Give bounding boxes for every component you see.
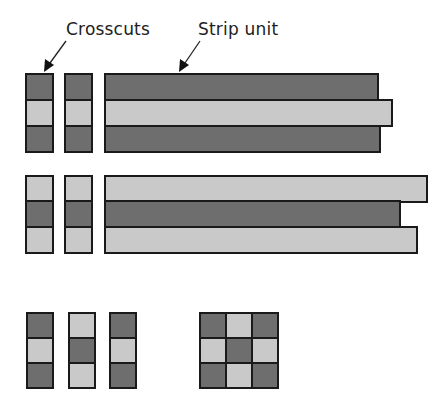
crosscut-1-segment bbox=[25, 73, 54, 101]
nine-patch-cell bbox=[225, 362, 253, 389]
crosscuts-arrow-icon bbox=[44, 41, 66, 72]
crosscut-1-segment bbox=[25, 175, 54, 203]
strip bbox=[104, 99, 393, 127]
crosscut-1-segment bbox=[25, 125, 54, 153]
crosscut-2-segment bbox=[64, 200, 93, 228]
crosscut-column-segment bbox=[109, 312, 137, 339]
crosscut-2-segment bbox=[64, 125, 93, 153]
crosscut-1-segment bbox=[25, 99, 54, 127]
crosscut-2-segment bbox=[64, 175, 93, 203]
crosscut-column-segment bbox=[68, 362, 96, 389]
crosscut-column-segment bbox=[26, 337, 54, 364]
crosscut-column-segment bbox=[68, 337, 96, 364]
crosscut-2-segment bbox=[64, 73, 93, 101]
crosscut-1-segment bbox=[25, 226, 54, 254]
crosscut-2-segment bbox=[64, 99, 93, 127]
nine-patch-cell bbox=[199, 362, 227, 389]
crosscut-column-segment bbox=[109, 362, 137, 389]
nine-patch-cell bbox=[199, 312, 227, 339]
crosscut-column-segment bbox=[26, 362, 54, 389]
strip bbox=[104, 73, 379, 101]
nine-patch-cell bbox=[251, 362, 279, 389]
crosscut-2-segment bbox=[64, 226, 93, 254]
strip-unit-arrow-icon bbox=[179, 41, 200, 72]
crosscut-column-segment bbox=[26, 312, 54, 339]
crosscut-column-segment bbox=[109, 337, 137, 364]
strip bbox=[104, 226, 418, 254]
nine-patch-cell bbox=[225, 312, 253, 339]
nine-patch-cell bbox=[251, 312, 279, 339]
crosscut-1-segment bbox=[25, 200, 54, 228]
nine-patch-cell bbox=[251, 337, 279, 364]
nine-patch-cell bbox=[225, 337, 253, 364]
crosscut-column-segment bbox=[68, 312, 96, 339]
strip bbox=[104, 175, 428, 203]
strip bbox=[104, 125, 381, 153]
nine-patch-cell bbox=[199, 337, 227, 364]
strip bbox=[104, 200, 401, 228]
